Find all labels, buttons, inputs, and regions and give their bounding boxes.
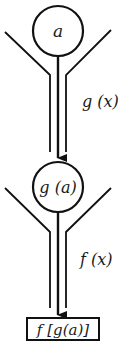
composition-diagram: a g (x) g (a) f (x) f [g(a)] (0, 0, 127, 348)
output-node-label: f [g(a)] (36, 321, 89, 339)
input-node: a (33, 6, 83, 56)
machine-f-label: f (x) (79, 250, 113, 269)
intermediate-node: g (a) (33, 162, 83, 212)
input-node-label: a (53, 21, 63, 41)
intermediate-node-label: g (a) (39, 178, 76, 197)
output-node: f [g(a)] (27, 318, 99, 340)
machine-g-label: g (x) (82, 92, 119, 111)
